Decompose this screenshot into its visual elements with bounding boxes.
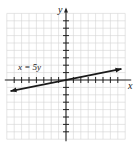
y-axis-label: y [57,4,63,15]
x-axis-label: x [127,80,133,91]
axes [5,7,131,141]
line-label: x = 5y [17,62,41,72]
graph: y x x = 5y [0,0,138,144]
